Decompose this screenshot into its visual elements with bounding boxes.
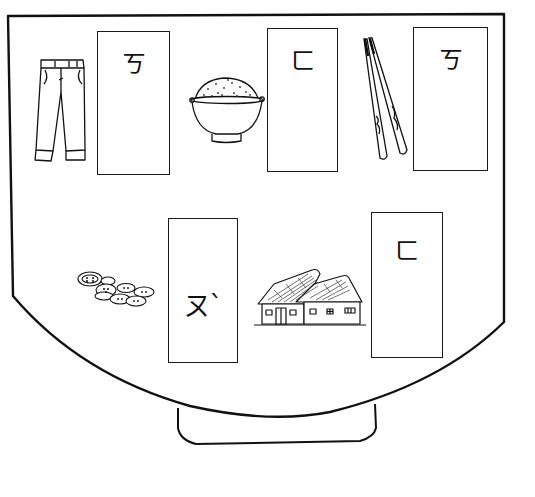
zhuyin-symbol: ㄈ [268,49,337,73]
answer-card-3[interactable]: ㄎ [413,27,488,171]
zhuyin-symbol: ㄎ [414,48,487,72]
zhuyin-symbol: ㄡˋ [169,293,237,319]
house-icon [252,264,372,326]
rice-bowl-icon [188,74,266,146]
answer-card-5[interactable]: ㄈ [371,212,443,358]
worksheet: ㄎ ㄈ ㄎ ㄡˋ ㄈ [0,0,535,497]
pants-icon [33,56,93,164]
answer-card-4[interactable]: ㄡˋ [168,218,238,363]
buttons-icon [76,268,158,310]
answer-card-2[interactable]: ㄈ [267,28,338,172]
zhuyin-symbol: ㄎ [98,52,169,76]
answer-card-1[interactable]: ㄎ [97,31,170,175]
chopsticks-icon [360,36,415,164]
zhuyin-symbol: ㄈ [372,239,442,263]
